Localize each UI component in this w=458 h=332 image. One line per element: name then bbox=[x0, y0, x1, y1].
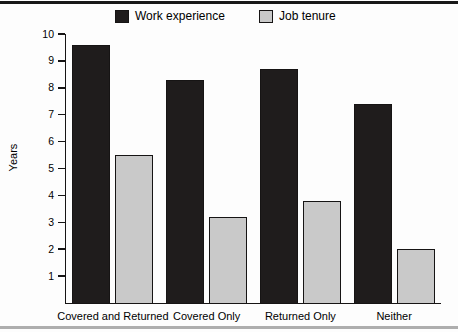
bar-work-experience bbox=[260, 69, 298, 303]
y-axis-tick-label: 7 bbox=[30, 108, 54, 121]
y-axis-tick-label: 9 bbox=[30, 54, 54, 67]
bar-job-tenure bbox=[303, 201, 341, 303]
legend-label-work-experience: Work experience bbox=[135, 9, 225, 23]
y-axis-tick bbox=[58, 87, 65, 89]
legend-swatch-job-tenure bbox=[259, 10, 273, 23]
y-axis-tick-label: 6 bbox=[30, 135, 54, 148]
bar-work-experience bbox=[72, 45, 110, 303]
bar-job-tenure bbox=[397, 249, 435, 303]
category-label: Neither bbox=[376, 310, 411, 323]
category-label: Covered and Returned bbox=[57, 310, 168, 323]
y-axis-tick bbox=[58, 275, 65, 277]
y-axis-tick bbox=[58, 114, 65, 116]
y-axis-tick bbox=[58, 168, 65, 170]
top-rule bbox=[0, 1, 458, 4]
legend-item-work-experience: Work experience bbox=[115, 9, 225, 23]
category-label: Returned Only bbox=[265, 310, 336, 323]
y-axis-title: Years bbox=[7, 129, 20, 187]
bar-job-tenure bbox=[115, 155, 153, 303]
bar-work-experience bbox=[354, 104, 392, 303]
bar-job-tenure bbox=[209, 217, 247, 303]
y-axis-tick-label: 1 bbox=[30, 270, 54, 283]
y-axis-tick bbox=[58, 195, 65, 197]
legend-label-job-tenure: Job tenure bbox=[279, 9, 336, 23]
y-axis-tick bbox=[58, 60, 65, 62]
category-label: Covered Only bbox=[173, 310, 240, 323]
y-axis-tick-label: 2 bbox=[30, 243, 54, 256]
y-axis-tick bbox=[58, 222, 65, 224]
plot-area: 12345678910Covered and ReturnedCovered O… bbox=[65, 34, 441, 304]
y-axis-tick-label: 10 bbox=[30, 28, 54, 41]
y-axis-tick bbox=[58, 141, 65, 143]
y-axis-tick-label: 4 bbox=[30, 189, 54, 202]
legend-item-job-tenure: Job tenure bbox=[259, 9, 336, 23]
figure: Work experience Job tenure Years 1234567… bbox=[0, 0, 458, 332]
bar-work-experience bbox=[166, 80, 204, 303]
y-axis-tick bbox=[58, 248, 65, 250]
y-axis-tick-label: 5 bbox=[30, 162, 54, 175]
y-axis-tick-label: 8 bbox=[30, 81, 54, 94]
y-axis-tick bbox=[58, 33, 65, 35]
y-axis-tick-label: 3 bbox=[30, 216, 54, 229]
legend-swatch-work-experience bbox=[115, 10, 129, 23]
bottom-rule bbox=[0, 326, 458, 329]
